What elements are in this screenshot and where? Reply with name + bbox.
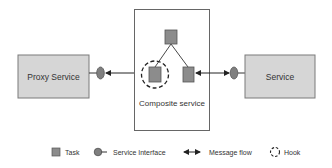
legend-hook-label: Hook [284,149,301,156]
left-service-interface [89,67,104,79]
proxy-service-label: Proxy Service [27,72,80,82]
interface-ellipse-icon [230,67,238,79]
composite-service-node: Composite service [135,10,210,131]
top-task-icon [165,30,177,44]
left-task-icon [149,67,161,82]
legend-service-interface-icon [94,148,102,156]
legend-hook-icon [271,148,280,157]
legend-service-interface-label: Service Interface [113,149,166,156]
service-node: Service [245,55,315,98]
interface-ellipse-icon [97,67,105,79]
composite-service-label: Composite service [139,99,205,108]
legend: Task Service Interface Message flow Hook [52,148,301,158]
legend-task-icon [52,148,60,156]
right-task-icon [183,67,194,82]
diagram-canvas: Proxy Service Composite service Service … [0,0,332,168]
legend-task-label: Task [65,149,80,156]
proxy-service-node: Proxy Service [18,55,89,98]
right-service-interface [230,67,245,79]
legend-message-flow-label: Message flow [209,149,253,157]
service-label: Service [266,72,295,82]
